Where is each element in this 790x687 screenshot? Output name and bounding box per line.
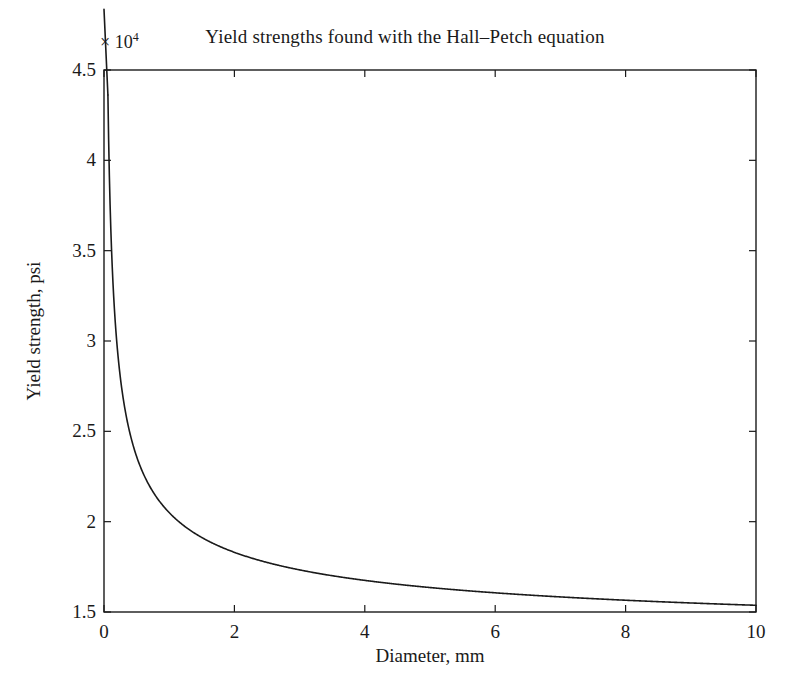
axes-frame <box>104 70 756 612</box>
data-curve <box>104 9 756 605</box>
plot-area <box>0 0 790 687</box>
axis-tick-marks <box>104 70 756 612</box>
axes-box <box>104 70 756 612</box>
figure-container: × 104 Yield strengths found with the Hal… <box>0 0 790 687</box>
hall-petch-curve <box>108 95 756 605</box>
